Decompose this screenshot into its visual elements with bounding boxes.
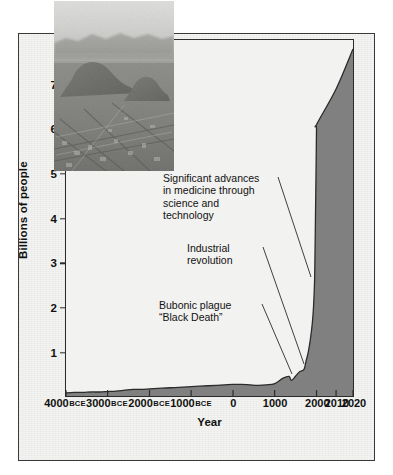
y-tick-label-2: 2 xyxy=(19,302,65,314)
y-tick-label-1: 1 xyxy=(19,347,65,359)
x-axis-labels: 4000BCE 3000BCE 2000BCE 1000BCE 0 1000 2… xyxy=(65,397,354,417)
x-tick-label-4000bce: 4000BCE xyxy=(44,397,86,409)
x-tick-label-0: 0 xyxy=(230,397,236,409)
aerial-cityscape-photo xyxy=(54,1,174,171)
x-tick-label-1000: 1000 xyxy=(263,397,287,409)
y-tick-label-3: 3 xyxy=(19,257,65,269)
x-tick-label-2020: 2020 xyxy=(342,397,366,409)
figure-frame: Billions of people 7 6 5 4 3 2 1 4000BCE… xyxy=(18,33,375,461)
y-tick-label-4: 4 xyxy=(19,213,65,225)
x-axis-title: Year xyxy=(65,416,354,428)
x-tick-label-3000bce: 3000BCE xyxy=(86,397,128,409)
annotation-plague: Bubonic plague “Black Death” xyxy=(159,299,279,324)
annotation-industrial: Industrial revolution xyxy=(187,242,279,267)
annotation-medicine: Significant advances in medicine through… xyxy=(163,172,275,222)
x-tick-label-2000bce: 2000BCE xyxy=(128,397,170,409)
x-tick-label-1000bce: 1000BCE xyxy=(170,397,212,409)
aerial-cityscape-photo-graphic xyxy=(54,1,174,171)
